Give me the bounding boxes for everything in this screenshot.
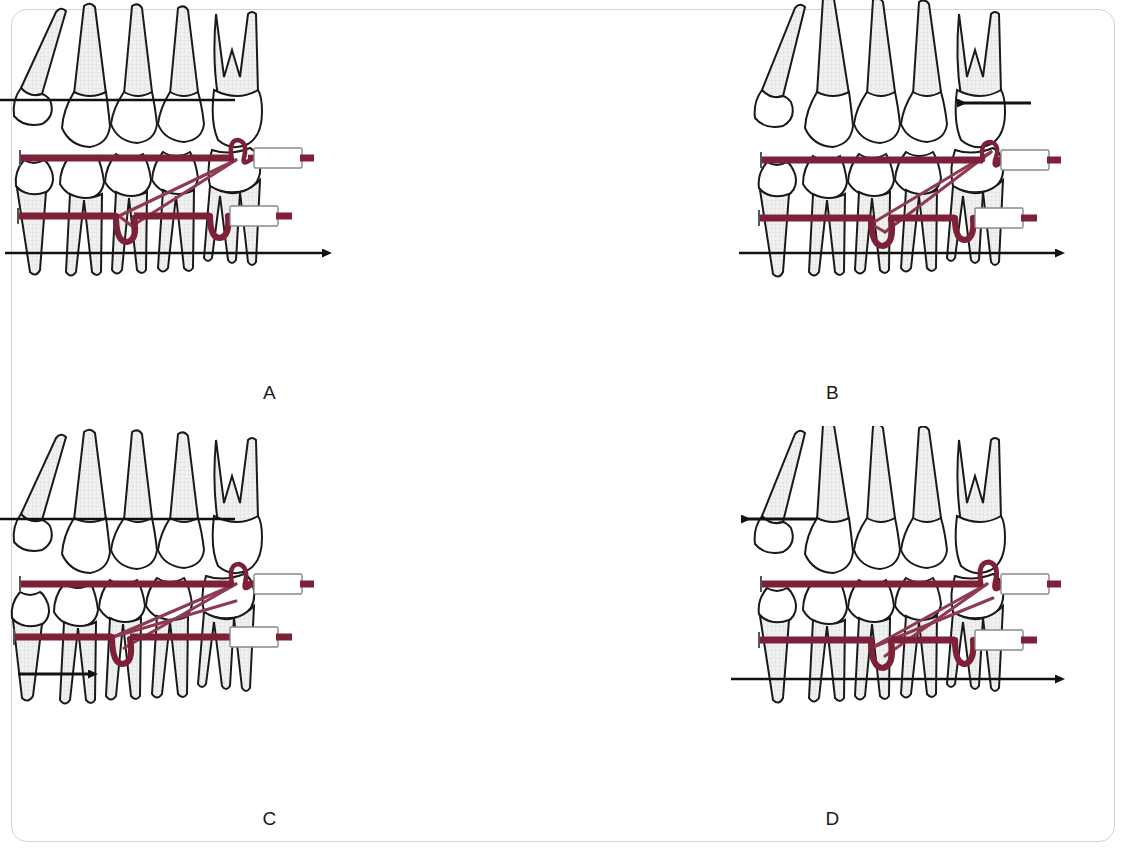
- upper-second-premolar: [901, 0, 947, 142]
- upper-first-premolar: [111, 4, 157, 143]
- panel-d: D: [563, 426, 1126, 852]
- figure-root: A: [0, 0, 1126, 852]
- panel-d-label: D: [551, 808, 1114, 830]
- panel-a-label: A: [0, 382, 551, 404]
- upper-buccal-tube: [254, 148, 302, 168]
- panel-b-illustration: [563, 0, 1126, 426]
- upper-canine: [805, 0, 853, 147]
- panel-b-label: B: [551, 382, 1114, 404]
- upper-buccal-tube: [254, 574, 302, 594]
- upper-incisor: [755, 431, 805, 553]
- lower-incisor: [759, 588, 796, 703]
- upper-canine: [62, 4, 110, 147]
- panel-a-illustration: [0, 0, 563, 426]
- upper-archwire: [0, 0, 314, 168]
- upper-buccal-tube: [1001, 150, 1049, 170]
- panel-grid: A: [0, 0, 1126, 852]
- upper-second-premolar: [901, 426, 947, 568]
- lower-buccal-tube: [975, 630, 1023, 650]
- upper-first-premolar: [854, 0, 900, 143]
- upper-molar: [213, 12, 262, 147]
- lower-buccal-tube: [230, 627, 278, 647]
- upper-molar: [213, 438, 262, 573]
- upper-incisor: [14, 435, 66, 551]
- panel-c: C: [0, 426, 563, 852]
- panel-a: A: [0, 0, 563, 426]
- panel-d-illustration: [563, 426, 1126, 852]
- panel-c-label: C: [0, 808, 551, 830]
- upper-buccal-tube: [1001, 574, 1049, 594]
- upper-second-premolar: [158, 6, 204, 142]
- upper-molar: [956, 12, 1005, 147]
- upper-molar: [956, 438, 1005, 573]
- upper-second-premolar: [158, 432, 204, 568]
- upper-canine: [805, 426, 853, 573]
- lower-buccal-tube: [230, 206, 278, 226]
- panel-b: B: [563, 0, 1126, 426]
- upper-canine: [62, 430, 110, 573]
- lower-canine: [54, 584, 98, 704]
- lower-incisor: [12, 592, 49, 701]
- upper-first-premolar: [854, 426, 900, 569]
- panel-c-illustration: [0, 426, 563, 852]
- lower-buccal-tube: [975, 208, 1023, 228]
- upper-incisor: [14, 9, 66, 125]
- upper-first-premolar: [111, 430, 157, 569]
- upper-incisor: [755, 5, 805, 127]
